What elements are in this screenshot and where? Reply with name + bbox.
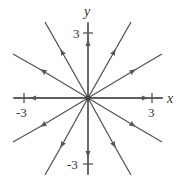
y-tick-label-neg3: -3: [67, 157, 78, 172]
trajectory-upper-right-shallow: [88, 54, 162, 98]
x-tick-label-3: 3: [148, 105, 155, 120]
origin-equilibrium: [86, 96, 91, 101]
y-tick-label-3: 3: [73, 26, 80, 41]
trajectory-upper-left-steep: [45, 22, 88, 98]
x-tick-label-neg3: -3: [16, 105, 27, 120]
x-axis-label: x: [166, 91, 174, 106]
trajectory-upper-right-steep: [88, 22, 131, 98]
phase-portrait: x y -3 3 3 -3: [0, 0, 184, 183]
y-axis-label: y: [82, 4, 91, 19]
trajectory-lower-right-steep: [88, 98, 131, 175]
trajectory-upper-left-shallow: [13, 54, 88, 98]
